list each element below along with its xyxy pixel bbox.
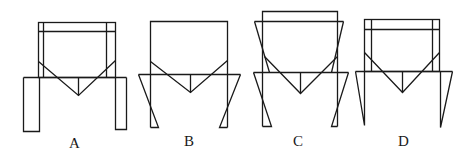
label-c: C [293,133,303,150]
figure-c [254,12,349,127]
figure-b [139,22,241,128]
figure-d [356,20,453,128]
label-d: D [398,133,409,150]
label-b: B [184,133,194,150]
figure-a [24,23,127,132]
label-a: A [69,135,80,152]
